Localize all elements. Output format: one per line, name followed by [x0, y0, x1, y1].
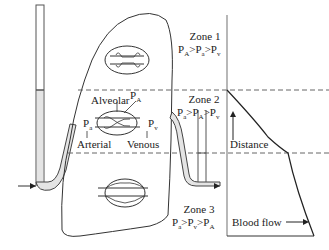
zone1-label: Zone 1: [190, 30, 221, 42]
blood-flow-axis-label: Blood flow: [232, 216, 282, 228]
venous-label: Venous: [127, 138, 159, 150]
zone1-relation: PA>Pa>Pv: [178, 43, 221, 58]
venous-manometer: [170, 110, 220, 189]
zone1-capillary: [105, 46, 149, 74]
arterial-label: Arterial: [77, 138, 111, 150]
alveolar-pressure-label: PA: [130, 89, 141, 104]
zone3-capillary: [98, 179, 148, 207]
blood-flow-graph: [227, 15, 314, 236]
arterial-manometer: [18, 5, 76, 190]
lung-zones-diagram: Zone 1 PA>Pa>Pv Zone 2 Pa>PA>Pv Zone 3 P…: [0, 0, 329, 250]
zone2-capillary: [87, 101, 147, 138]
alveolar-label: Alveolar: [91, 94, 130, 106]
zone3-label: Zone 3: [184, 203, 215, 215]
venous-pressure-label: Pv: [148, 117, 158, 132]
arterial-pressure-label: Pa: [83, 117, 93, 132]
zone3-relation: Pa>Pv>PA: [172, 216, 214, 231]
distance-axis-label: Distance: [230, 138, 269, 150]
zone2-label: Zone 2: [189, 93, 220, 105]
zone2-relation: Pa>PA>Pv: [177, 106, 220, 121]
